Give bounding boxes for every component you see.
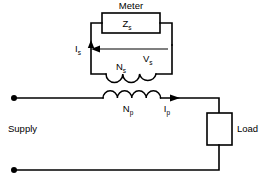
meter-label: Meter bbox=[119, 0, 143, 11]
ip-label-sub: p bbox=[167, 109, 171, 117]
supply-terminal-bottom bbox=[11, 167, 17, 173]
is-arrowhead bbox=[88, 40, 94, 48]
secondary-left-upper-wire bbox=[91, 23, 102, 45]
supply-bottom-wire bbox=[14, 145, 219, 170]
secondary-right-upper-wire bbox=[160, 23, 172, 45]
supply-terminal-top bbox=[11, 95, 17, 101]
secondary-winding bbox=[106, 74, 156, 82]
circuit-diagram: Meter Zs Is Vs Ns Np Ip Supply Load bbox=[0, 0, 260, 183]
ip-arrowhead bbox=[170, 94, 180, 101]
is-label: Is bbox=[75, 43, 82, 56]
ns-label-sub: s bbox=[123, 67, 127, 74]
primary-winding bbox=[103, 91, 161, 98]
ns-label: Ns bbox=[116, 61, 127, 74]
vs-label: Vs bbox=[143, 53, 153, 66]
vs-label-sub: s bbox=[149, 59, 153, 66]
is-label-sub: s bbox=[78, 49, 82, 56]
circuit-canvas: Meter Zs Is Vs Ns Np Ip Supply Load bbox=[0, 0, 260, 183]
load-label: Load bbox=[237, 123, 258, 134]
np-label-sub: p bbox=[130, 109, 134, 117]
np-label: Np bbox=[123, 103, 134, 117]
load-box bbox=[207, 113, 232, 145]
supply-label: Supply bbox=[8, 123, 37, 134]
ip-label: Ip bbox=[164, 103, 171, 117]
